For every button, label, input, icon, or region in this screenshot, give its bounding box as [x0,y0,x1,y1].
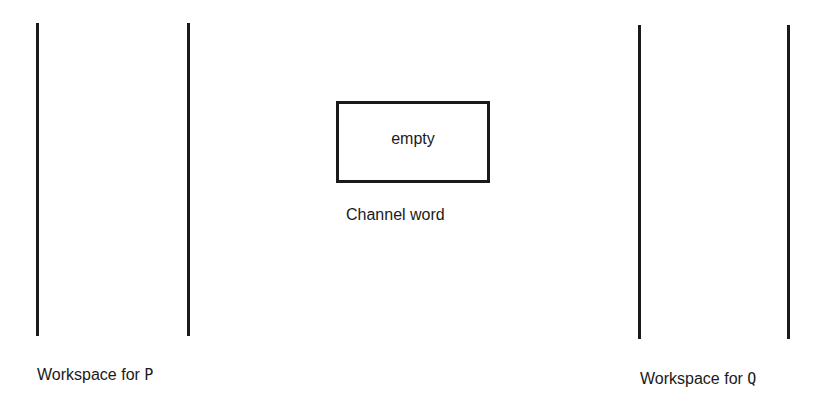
process-name: P [144,366,153,384]
workspace-p-right-border [187,23,190,336]
workspace-q-label: Workspace for Q [640,370,756,388]
channel-word-value: empty [391,130,435,148]
workspace-p-label: Workspace for P [37,366,153,384]
channel-word-label: Channel word [346,206,445,224]
channel-word-box: empty [336,101,490,183]
workspace-p-left-border [36,23,39,336]
process-name: Q [747,370,756,388]
workspace-q-right-border [787,25,790,339]
workspace-q-left-border [638,25,641,339]
